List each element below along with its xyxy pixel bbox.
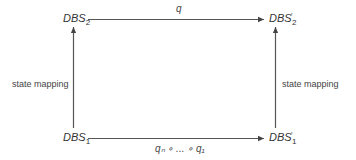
node-dbs2-base: DBS <box>63 12 86 24</box>
node-dbs2-prime-sub: 2 <box>292 18 296 27</box>
node-dbs1: DBS1 <box>63 131 90 146</box>
node-dbs1-sub: 1 <box>86 137 90 146</box>
node-dbs2-prime-base: DBS <box>269 12 292 24</box>
edge-label-right-state-mapping: state mapping <box>282 79 339 89</box>
node-dbs1-prime-base: DBS <box>269 131 292 143</box>
node-dbs1-prime: DBS′1 <box>269 131 296 146</box>
node-dbs2-sub: 2 <box>86 18 90 27</box>
node-dbs1-base: DBS <box>63 131 86 143</box>
edge-label-composition: qₙ ∘ ... ∘ q₁ <box>155 143 205 154</box>
node-dbs2: DBS2 <box>63 12 90 27</box>
node-dbs1-prime-sub: 1 <box>292 137 296 146</box>
node-dbs2-prime: DBS′2 <box>269 12 296 27</box>
edge-label-left-state-mapping: state mapping <box>12 79 69 89</box>
edge-label-q: q <box>176 3 182 14</box>
